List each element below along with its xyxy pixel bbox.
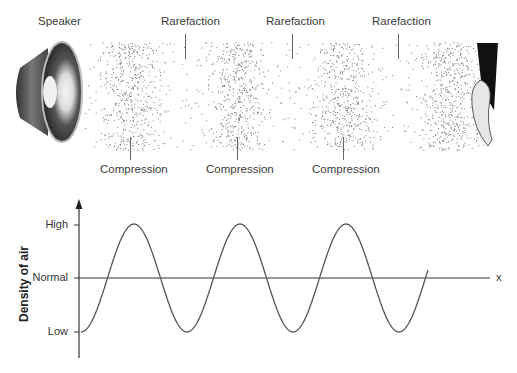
density-graph (74, 199, 490, 358)
y-axis-title: Density of air (17, 246, 31, 322)
rarefaction-leader-1 (185, 34, 186, 59)
air-particle-field (85, 42, 486, 151)
rarefaction-label-3: Rarefaction (372, 15, 431, 27)
rarefaction-label-2: Rarefaction (266, 15, 325, 27)
diagram-canvas (0, 0, 517, 373)
compression-label-3: Compression (312, 163, 380, 175)
y-tick-low: Low (28, 325, 68, 337)
rarefaction-leader-2 (292, 34, 293, 59)
x-axis-label: x (496, 271, 502, 283)
rarefaction-leader-3 (398, 34, 399, 59)
y-axis-arrow-icon (76, 199, 83, 209)
rarefaction-label-1: Rarefaction (161, 15, 220, 27)
compression-leader-2 (237, 137, 238, 160)
ear-icon (472, 43, 498, 146)
y-tick-high: High (28, 218, 68, 230)
speaker-label: Speaker (38, 15, 81, 27)
speaker-icon (16, 42, 82, 142)
compression-label-1: Compression (100, 163, 168, 175)
compression-leader-1 (130, 137, 131, 160)
y-tick-normal: Normal (28, 271, 68, 283)
compression-leader-3 (343, 137, 344, 160)
compression-label-2: Compression (206, 163, 274, 175)
